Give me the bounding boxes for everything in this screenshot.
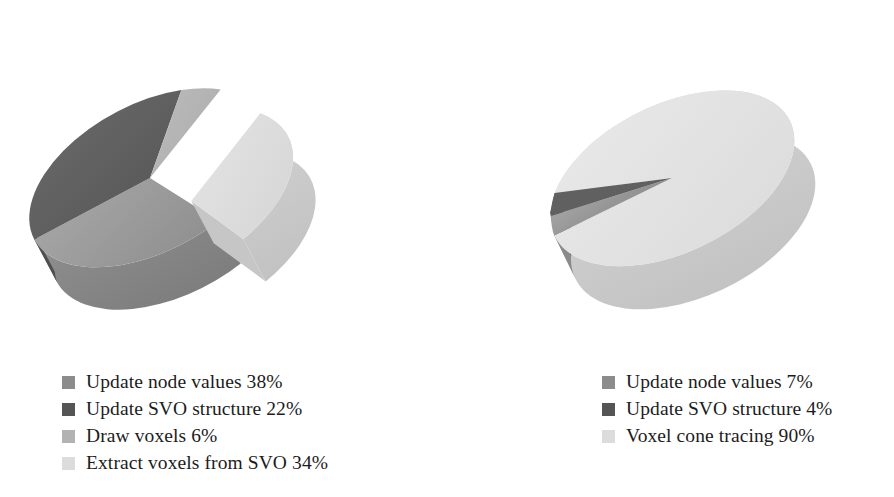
legend-swatch-icon bbox=[62, 430, 75, 443]
left-chart-panel: Update node values 38% Update SVO struct… bbox=[0, 0, 447, 497]
legend-swatch-icon bbox=[602, 376, 615, 389]
right-chart-panel: Update node values 7% Update SVO structu… bbox=[447, 0, 894, 497]
legend-item: Draw voxels 6% bbox=[62, 422, 328, 449]
legend-item: Update SVO structure 22% bbox=[62, 395, 328, 422]
two-pie-chart-figure: Update node values 38% Update SVO struct… bbox=[0, 0, 894, 497]
legend-item: Voxel cone tracing 90% bbox=[602, 422, 832, 449]
legend-item: Update SVO structure 4% bbox=[602, 395, 832, 422]
legend-item-label: Update SVO structure 22% bbox=[86, 399, 302, 419]
legend-item: Extract voxels from SVO 34% bbox=[62, 449, 328, 476]
right-pie-graphic bbox=[447, 0, 894, 362]
legend-swatch-icon bbox=[62, 403, 75, 416]
legend-item-label: Update SVO structure 4% bbox=[626, 399, 832, 419]
left-pie-chart bbox=[0, 0, 447, 362]
right-chart-legend: Update node values 7% Update SVO structu… bbox=[447, 368, 894, 449]
legend-item-label: Voxel cone tracing 90% bbox=[626, 426, 815, 446]
legend-item-label: Update node values 38% bbox=[86, 372, 283, 392]
legend-item-label: Update node values 7% bbox=[626, 372, 813, 392]
left-pie-graphic bbox=[0, 0, 447, 362]
legend-item: Update node values 7% bbox=[602, 368, 832, 395]
left-chart-legend: Update node values 38% Update SVO struct… bbox=[0, 368, 447, 476]
legend-swatch-icon bbox=[62, 457, 75, 470]
legend-swatch-icon bbox=[602, 403, 615, 416]
legend-item-label: Extract voxels from SVO 34% bbox=[86, 453, 328, 473]
legend-swatch-icon bbox=[602, 430, 615, 443]
legend-item-label: Draw voxels 6% bbox=[86, 426, 217, 446]
legend-swatch-icon bbox=[62, 376, 75, 389]
right-pie-chart bbox=[447, 0, 894, 362]
legend-item: Update node values 38% bbox=[62, 368, 328, 395]
